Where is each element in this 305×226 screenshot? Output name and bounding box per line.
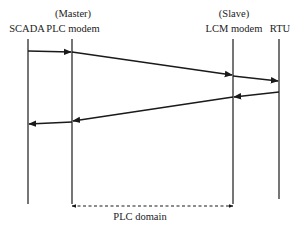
plc-domain-label: PLC domain (113, 211, 167, 222)
role-label-lcm: (Slave) (219, 8, 250, 20)
message-lcm-to-plc (73, 97, 233, 121)
lane-label-plc: PLC modem (46, 23, 99, 34)
role-label-plc: (Master) (55, 8, 92, 20)
message-lcm-to-rtu (233, 76, 278, 81)
sequence-diagram: (Master) (Slave) SCADA PLC modem LCM mod… (0, 0, 305, 226)
message-scada-to-plc (28, 51, 71, 52)
message-rtu-to-lcm (234, 92, 279, 97)
message-plc-to-lcm (72, 52, 232, 75)
message-plc-to-scada (29, 122, 72, 124)
lane-label-rtu: RTU (270, 23, 291, 34)
lane-label-lcm: LCM modem (206, 23, 263, 34)
lane-label-scada: SCADA (9, 23, 45, 34)
